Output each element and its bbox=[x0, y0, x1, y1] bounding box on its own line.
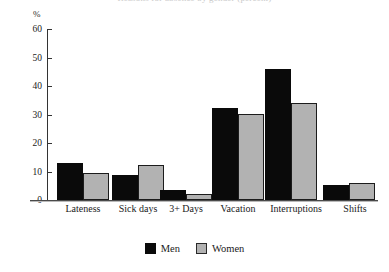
y-tick-label-10: 10 bbox=[18, 167, 42, 177]
women-swatch-icon bbox=[196, 243, 207, 254]
y-tick-40 bbox=[47, 86, 52, 87]
y-tick-30 bbox=[47, 115, 52, 116]
bar-men-3plus-days bbox=[160, 190, 186, 200]
legend-label-men: Men bbox=[161, 243, 180, 254]
y-tick-60 bbox=[47, 29, 52, 30]
y-tick-10 bbox=[47, 172, 52, 173]
chart-legend: Men Women bbox=[0, 243, 389, 254]
y-tick-50 bbox=[47, 58, 52, 59]
bar-women-vacation bbox=[238, 114, 264, 200]
plot-area: % 0 10 20 30 40 50 60 bbox=[0, 0, 389, 272]
x-axis-baseline-shadow bbox=[30, 201, 378, 202]
y-tick-label-30: 30 bbox=[18, 110, 42, 120]
bar-men-lateness bbox=[57, 163, 83, 200]
bar-men-vacation bbox=[212, 108, 238, 201]
bar-women-interruptions bbox=[291, 103, 317, 200]
men-swatch-icon bbox=[145, 243, 156, 254]
y-tick-label-60: 60 bbox=[18, 24, 42, 34]
legend-item-women: Women bbox=[196, 243, 244, 254]
bar-men-shifts bbox=[323, 185, 349, 201]
category-label-shifts: Shifts bbox=[322, 203, 388, 214]
bar-women-lateness bbox=[83, 173, 109, 200]
y-tick-label-20: 20 bbox=[18, 138, 42, 148]
y-tick-label-50: 50 bbox=[18, 53, 42, 63]
bar-men-sick-days bbox=[112, 175, 138, 201]
bar-women-shifts bbox=[349, 183, 375, 200]
legend-label-women: Women bbox=[212, 243, 244, 254]
y-tick-20 bbox=[47, 143, 52, 144]
y-axis-unit-label: % bbox=[33, 9, 41, 19]
legend-item-men: Men bbox=[145, 243, 180, 254]
bar-chart-figure: Reasons for absence by gender (percent) … bbox=[0, 0, 389, 272]
bar-men-interruptions bbox=[265, 69, 291, 200]
y-tick-label-40: 40 bbox=[18, 81, 42, 91]
